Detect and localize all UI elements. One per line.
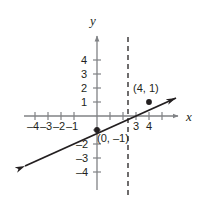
y-tick-label-4: 4 (81, 55, 87, 66)
point-4-1 (146, 99, 152, 105)
coordinate-plane-figure: y x –4 –3 –2 –1 3 4 4 3 2 1 –2 –3 –4 (0,… (0, 0, 207, 208)
y-tick-label-3: 3 (81, 69, 87, 80)
y-tick-label-neg3: –3 (76, 153, 88, 164)
graph-canvas (0, 0, 207, 208)
y-tick-label-1: 1 (81, 97, 87, 108)
x-tick-label-3: 3 (133, 121, 139, 132)
point-label-origin: (0, –1) (97, 133, 129, 144)
y-tick-label-neg2: –2 (76, 139, 88, 150)
point-label-four-one: (4, 1) (133, 83, 159, 94)
x-tick-label-neg1: –1 (66, 121, 78, 132)
y-tick-label-2: 2 (81, 83, 87, 94)
x-tick-label-neg2: –2 (53, 121, 65, 132)
x-axis-label: x (186, 110, 192, 123)
y-tick-label-neg4: –4 (76, 167, 88, 178)
y-axis-label: y (90, 14, 96, 27)
x-tick-label-4: 4 (146, 121, 152, 132)
x-tick-label-neg3: –3 (40, 121, 52, 132)
x-tick-label-neg4: –4 (27, 121, 39, 132)
